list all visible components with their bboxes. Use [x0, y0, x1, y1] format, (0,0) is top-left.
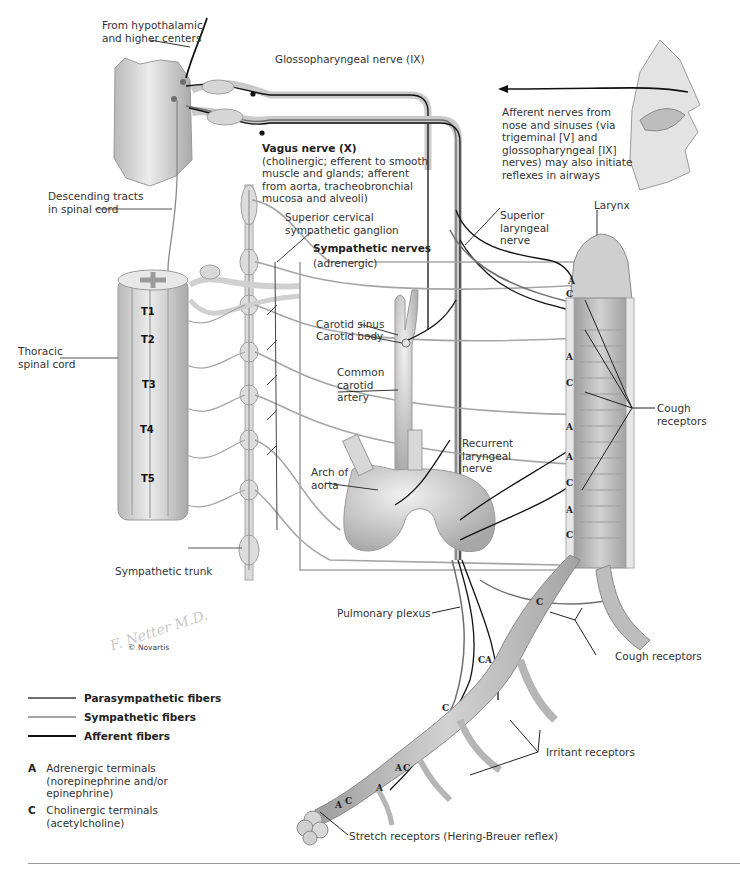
- label-cough-receptors-upper: Cough receptors: [657, 402, 707, 427]
- bottom-divider: [28, 863, 740, 864]
- label-line: trigeminal [V] and: [502, 131, 632, 144]
- label-line: Common: [337, 366, 384, 379]
- label-thoracic-spinal-cord: Thoracic spinal cord: [18, 345, 75, 370]
- label-line: in spinal cord: [48, 203, 143, 216]
- legend-row-sympathetic: Sympathetic fibers: [28, 707, 221, 726]
- label-arch-of-aorta: Arch of aorta: [311, 466, 348, 491]
- terminal-marker: C: [566, 378, 573, 388]
- larynx-trachea: [566, 234, 634, 568]
- label-vagus-nerve: Vagus nerve (X) (cholinergic; efferent t…: [262, 142, 428, 205]
- label-line: nerve: [500, 234, 549, 247]
- label-line: From hypothalamic: [102, 19, 203, 32]
- label-line: Cough: [657, 402, 707, 415]
- legend-row-afferent: Afferent fibers: [28, 726, 221, 745]
- copyright: © Novartis: [128, 643, 169, 652]
- label-sympathetic-trunk: Sympathetic trunk: [115, 565, 212, 578]
- segment-t4: T4: [140, 424, 154, 435]
- label-line: Afferent nerves from: [502, 106, 632, 119]
- label-line: Recurrent: [462, 437, 513, 450]
- key-adrenergic: A Adrenergic terminals (norepinephrine a…: [28, 762, 168, 800]
- label-sympathetic-nerves: Sympathetic nerves (adrenergic): [313, 242, 431, 269]
- segment-t2: T2: [141, 334, 155, 345]
- terminal-marker: C: [566, 530, 573, 540]
- terminal-marker: C: [536, 597, 543, 607]
- label-line: carotid: [337, 379, 384, 392]
- terminal-marker: A: [335, 800, 342, 810]
- afferent-line-swatch: [28, 735, 76, 737]
- label-line: nerves) may also initiate: [502, 156, 632, 169]
- terminal-marker: A: [566, 452, 573, 462]
- legend-label: Parasympathetic fibers: [84, 692, 221, 704]
- terminal-marker: A: [376, 783, 383, 793]
- sympathetic-line-swatch: [28, 716, 76, 718]
- label-line: nose and sinuses (via: [502, 119, 632, 132]
- label-line: Superior: [500, 209, 549, 222]
- terminal-marker: A: [566, 505, 573, 515]
- label-line: laryngeal: [500, 222, 549, 235]
- label-line: glossopharyngeal [IX]: [502, 144, 632, 157]
- fiber-legend: Parasympathetic fibers Sympathetic fiber…: [28, 688, 221, 745]
- label-line: (norepinephrine and/or: [46, 775, 167, 788]
- terminal-marker: C: [566, 289, 573, 299]
- label-line: Descending tracts: [48, 190, 143, 203]
- label-pulmonary-plexus: Pulmonary plexus: [337, 607, 431, 620]
- label-line: (cholinergic; efferent to smooth: [262, 155, 428, 168]
- thoracic-spinal-cord: [60, 270, 188, 520]
- legend-row-parasympathetic: Parasympathetic fibers: [28, 688, 221, 707]
- label-cough-receptors-lower: Cough receptors: [615, 650, 702, 663]
- sympathetic-nerves-title: Sympathetic nerves: [313, 242, 431, 255]
- brainstem: [114, 58, 192, 186]
- label-recurrent-laryngeal-nerve: Recurrent laryngeal nerve: [462, 437, 513, 475]
- label-line: from aorta, tracheobronchial: [262, 180, 428, 193]
- key-description: Adrenergic terminals (norepinephrine and…: [46, 762, 167, 800]
- segment-t5: T5: [141, 473, 155, 484]
- terminal-marker: C: [403, 763, 410, 773]
- terminal-marker: C: [442, 703, 449, 713]
- label-line: sympathetic ganglion: [285, 224, 399, 237]
- segment-t3: T3: [142, 379, 156, 390]
- label-line: receptors: [657, 415, 707, 428]
- label-glossopharyngeal-nerve: Glossopharyngeal nerve (IX): [275, 53, 425, 66]
- label-line: artery: [337, 391, 384, 404]
- legend-label: Sympathetic fibers: [84, 711, 196, 723]
- head-sagittal-section: [630, 40, 700, 190]
- label-descending-tracts: Descending tracts in spinal cord: [48, 190, 143, 215]
- label-line: (acetylcholine): [46, 817, 158, 830]
- terminal-marker: A: [566, 352, 573, 362]
- parasympathetic-line-swatch: [28, 697, 76, 699]
- label-line: Adrenergic terminals: [46, 762, 167, 775]
- label-line: nerve: [462, 462, 513, 475]
- label-irritant-receptors: Irritant receptors: [546, 746, 635, 759]
- terminal-marker: A: [566, 422, 573, 432]
- terminal-marker: C: [566, 478, 573, 488]
- terminal-marker: C: [345, 796, 352, 806]
- label-line: epinephrine): [46, 787, 167, 800]
- label-line: Cholinergic terminals: [46, 804, 158, 817]
- label-carotid-body: Carotid body: [316, 330, 383, 343]
- terminal-marker: A: [485, 655, 492, 665]
- legend-label: Afferent fibers: [84, 730, 170, 742]
- label-line: laryngeal: [462, 450, 513, 463]
- segment-t1: T1: [141, 306, 155, 317]
- label-superior-cervical-ganglion: Superior cervical sympathetic ganglion: [285, 211, 399, 236]
- label-line: Superior cervical: [285, 211, 399, 224]
- label-line: mucosa and alveoli): [262, 192, 428, 205]
- label-larynx: Larynx: [594, 199, 630, 212]
- vagus-title: Vagus nerve (X): [262, 142, 428, 155]
- label-line: reflexes in airways: [502, 169, 632, 182]
- key-letter: A: [28, 762, 43, 775]
- label-nose-afferents: Afferent nerves from nose and sinuses (v…: [502, 106, 632, 181]
- key-cholinergic: C Cholinergic terminals (acetylcholine): [28, 804, 158, 829]
- label-line: (adrenergic): [313, 257, 431, 270]
- label-line: Arch of: [311, 466, 348, 479]
- label-hypothalamic: From hypothalamic and higher centers: [102, 19, 203, 44]
- terminal-marker: A: [568, 276, 575, 286]
- label-superior-laryngeal-nerve: Superior laryngeal nerve: [500, 209, 549, 247]
- label-line: and higher centers: [102, 32, 203, 45]
- terminal-marker: A: [395, 763, 402, 773]
- label-line: Thoracic: [18, 345, 75, 358]
- label-carotid-sinus: Carotid sinus: [316, 318, 384, 331]
- label-line: muscle and glands; afferent: [262, 167, 428, 180]
- label-line: aorta: [311, 479, 348, 492]
- label-line: spinal cord: [18, 358, 75, 371]
